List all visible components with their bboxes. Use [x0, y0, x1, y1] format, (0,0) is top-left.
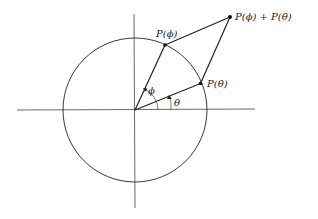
vector-addition-diagram: P(ϕ) P(θ) P(ϕ) + P(θ) ϕ θ	[0, 0, 318, 219]
label-p-phi: P(ϕ)	[155, 28, 177, 39]
label-angle-phi: ϕ	[148, 85, 155, 96]
label-p-theta: P(θ)	[206, 78, 228, 89]
y-axis	[134, 14, 135, 208]
label-angle-theta: θ	[174, 97, 180, 108]
point-p-sum	[228, 15, 232, 19]
parallelogram-side-right	[201, 17, 231, 84]
label-p-sum: P(ϕ) + P(θ)	[234, 11, 292, 22]
point-p-phi	[163, 43, 167, 47]
point-p-theta	[199, 82, 203, 86]
